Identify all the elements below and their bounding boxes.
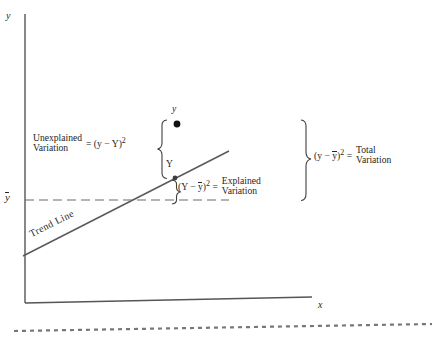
- observed-point-label: y: [172, 104, 176, 114]
- unexplained-pred: Y): [112, 138, 122, 149]
- x-axis-label: x: [318, 300, 322, 311]
- y-axis-label: y: [6, 11, 10, 22]
- unexplained-variation-annotation: Unexplained Variation = (y − Y)2: [33, 133, 126, 154]
- y-mean-glyph: y: [5, 192, 10, 204]
- total-variation-words: Total Variation: [356, 145, 391, 166]
- observed-point: [174, 121, 181, 128]
- y-mean-tick-label: y: [5, 192, 10, 204]
- unexplained-exponent: 2: [122, 136, 126, 145]
- regression-variation-diagram: [0, 0, 439, 338]
- explained-exponent: 2: [206, 179, 210, 188]
- explained-minus: −: [190, 181, 195, 192]
- trend-line: [23, 151, 229, 256]
- explained-variation-line2: Variation: [222, 186, 261, 196]
- bottom-dotted-rule: [14, 324, 432, 331]
- total-exponent: 2: [340, 148, 344, 157]
- explained-equals: =: [212, 181, 217, 192]
- unexplained-minus: −: [104, 138, 109, 149]
- explained-mean-glyph: y: [198, 182, 203, 192]
- total-variation-annotation: (y − y)2 = Total Variation: [314, 145, 391, 166]
- unexplained-open: (y: [94, 138, 102, 149]
- unexplained-equals: =: [86, 138, 91, 149]
- unexplained-variation-line2: Variation: [33, 143, 82, 153]
- explained-variation-annotation: (Y − y)2 = Explained Variation: [178, 176, 261, 197]
- explained-variation-words: Explained Variation: [222, 176, 261, 197]
- total-variation-line2: Variation: [356, 155, 391, 165]
- total-variation-brace: [301, 120, 311, 201]
- total-variation-formula: (y − y)2 =: [314, 149, 352, 162]
- unexplained-variation-formula: = (y − Y)2: [86, 137, 126, 150]
- explained-open: (Y: [178, 181, 188, 192]
- total-minus: −: [324, 150, 329, 161]
- unexplained-variation-brace: [158, 120, 168, 179]
- total-equals: =: [347, 150, 352, 161]
- x-axis: [25, 297, 312, 303]
- unexplained-variation-words: Unexplained Variation: [33, 133, 82, 154]
- total-open: (y: [314, 150, 322, 161]
- explained-variation-formula: (Y − y)2 =: [178, 180, 218, 193]
- total-mean-glyph: y: [332, 151, 337, 161]
- predicted-point-label: Y: [166, 159, 173, 169]
